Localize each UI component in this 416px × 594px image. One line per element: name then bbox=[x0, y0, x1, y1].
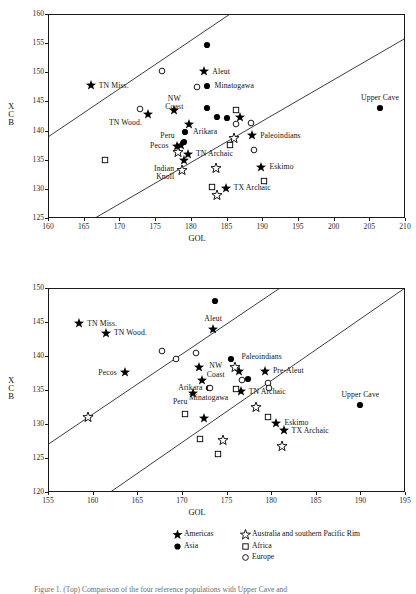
x-tick-label: 165 bbox=[68, 222, 100, 231]
x-tick-label: 185 bbox=[211, 222, 243, 231]
open-square-marker bbox=[262, 411, 273, 422]
open-circle-marker bbox=[236, 374, 247, 385]
open-star-marker bbox=[250, 402, 261, 413]
legend-label: Americas bbox=[183, 529, 213, 538]
filled-star-marker bbox=[247, 130, 258, 141]
x-tick-label: 175 bbox=[211, 496, 243, 505]
x-tick-mark bbox=[84, 218, 85, 221]
x-tick-mark bbox=[369, 218, 370, 221]
y-tick-label: 120 bbox=[22, 487, 44, 496]
legend-label: Europe bbox=[251, 552, 274, 561]
x-tick-mark bbox=[137, 492, 138, 495]
open-circle-marker bbox=[230, 119, 241, 130]
y-tick-mark bbox=[45, 72, 48, 73]
open-square-marker bbox=[225, 140, 236, 151]
legend-marker bbox=[172, 540, 183, 551]
y-tick-label: 125 bbox=[22, 453, 44, 462]
data-point-label: Indian Knoll bbox=[0, 165, 174, 182]
filled-star-marker bbox=[74, 318, 85, 329]
x-tick-mark bbox=[405, 492, 406, 495]
x-tick-mark bbox=[405, 218, 406, 221]
open-circle-marker bbox=[157, 346, 168, 357]
filled-star-marker bbox=[199, 412, 210, 423]
x-tick-label: 195 bbox=[282, 222, 314, 231]
filled-star-marker bbox=[85, 80, 96, 91]
x-tick-mark bbox=[227, 492, 228, 495]
open-circle-marker bbox=[170, 354, 181, 365]
y-tick-label: 160 bbox=[22, 9, 44, 18]
data-point-label: Eskimo bbox=[269, 162, 293, 171]
y-tick-label: 135 bbox=[22, 155, 44, 164]
filled-circle-marker bbox=[375, 102, 386, 113]
data-point-label: Arikara bbox=[193, 127, 217, 136]
legend-item: Americas bbox=[172, 528, 213, 539]
data-point-label: TN Miss. bbox=[99, 81, 129, 90]
data-point-label: Aleut bbox=[212, 67, 230, 76]
open-square-marker bbox=[194, 433, 205, 444]
open-star-marker bbox=[230, 361, 241, 372]
x-tick-mark bbox=[271, 492, 272, 495]
filled-star-marker bbox=[101, 327, 112, 338]
x-tick-label: 210 bbox=[389, 222, 416, 231]
x-tick-label: 200 bbox=[318, 222, 350, 231]
filled-star-marker bbox=[199, 66, 210, 77]
open-star-legend-icon bbox=[240, 529, 251, 540]
x-axis-label-bottom: GOL bbox=[189, 508, 206, 517]
legend-marker bbox=[240, 528, 251, 539]
y-tick-label: 130 bbox=[22, 184, 44, 193]
open-square-marker bbox=[179, 408, 190, 419]
x-tick-label: 190 bbox=[246, 222, 278, 231]
filled-star-marker bbox=[119, 367, 130, 378]
open-square-marker bbox=[100, 155, 111, 166]
y-tick-label: 125 bbox=[22, 213, 44, 222]
x-tick-label: 155 bbox=[32, 496, 64, 505]
data-point-label: Paleoindians bbox=[241, 352, 282, 361]
x-tick-mark bbox=[48, 492, 49, 495]
open-square-marker bbox=[207, 182, 218, 193]
x-tick-mark bbox=[191, 218, 192, 221]
y-tick-mark bbox=[45, 288, 48, 289]
y-tick-label: 145 bbox=[22, 96, 44, 105]
x-tick-mark bbox=[262, 218, 263, 221]
legend-label: Asia bbox=[183, 541, 198, 550]
open-star-marker bbox=[276, 441, 287, 452]
y-tick-mark bbox=[45, 458, 48, 459]
legend-label: Africa bbox=[251, 541, 272, 550]
open-circle-marker bbox=[205, 382, 216, 393]
x-tick-mark bbox=[298, 218, 299, 221]
scatter-panel-top: XCB GOL 12513013514014515015516016016517… bbox=[0, 0, 411, 262]
x-tick-mark bbox=[119, 218, 120, 221]
filled-star-marker bbox=[208, 324, 219, 335]
filled-circle-marker bbox=[355, 399, 366, 410]
open-circle-marker bbox=[192, 82, 203, 93]
x-tick-label: 190 bbox=[344, 496, 376, 505]
x-tick-mark bbox=[182, 492, 183, 495]
legend-marker bbox=[172, 528, 183, 539]
open-square-marker bbox=[231, 104, 242, 115]
x-tick-mark bbox=[93, 492, 94, 495]
legend-label: Australia and southern Pacific Rim bbox=[251, 529, 360, 538]
y-tick-label: 150 bbox=[22, 283, 44, 292]
data-point-label: TN Wood. bbox=[0, 118, 142, 127]
y-tick-mark bbox=[45, 322, 48, 323]
x-tick-mark bbox=[48, 218, 49, 221]
y-tick-mark bbox=[45, 356, 48, 357]
y-tick-label: 140 bbox=[22, 351, 44, 360]
data-point-label: Pre-Aleut bbox=[273, 366, 304, 375]
filled-star-marker bbox=[259, 365, 270, 376]
y-tick-label: 130 bbox=[22, 419, 44, 428]
legend: AmericasAsiaAustralia and southern Pacif… bbox=[0, 528, 411, 574]
open-circle-marker bbox=[157, 65, 168, 76]
x-tick-label: 205 bbox=[353, 222, 385, 231]
x-tick-label: 195 bbox=[389, 496, 416, 505]
x-tick-label: 170 bbox=[103, 222, 135, 231]
y-tick-label: 145 bbox=[22, 317, 44, 326]
x-tick-mark bbox=[316, 492, 317, 495]
data-point-label: Pecos bbox=[0, 141, 169, 150]
open-star-marker bbox=[210, 163, 221, 174]
open-circle-marker bbox=[264, 382, 275, 393]
open-circle-marker bbox=[135, 104, 146, 115]
x-tick-mark bbox=[334, 218, 335, 221]
open-circle-legend-icon bbox=[240, 552, 251, 563]
